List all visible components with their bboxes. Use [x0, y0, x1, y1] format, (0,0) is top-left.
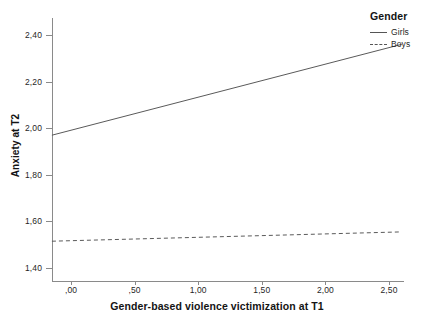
series-line-girls	[52, 44, 402, 135]
legend-title: Gender	[370, 10, 432, 22]
legend-label-girls: Girls	[391, 27, 409, 37]
chart-figure: 2,40 2,20 2,00 1,80 1,60 1,40 ,00 ,50 1,…	[0, 0, 434, 324]
y-axis-title: Anxiety at T2	[10, 86, 21, 206]
legend-line-dashed-icon	[370, 40, 387, 48]
legend: Gender Girls Boys	[368, 10, 432, 50]
legend-label-boys: Boys	[391, 39, 410, 49]
legend-line-solid-icon	[370, 28, 387, 36]
x-axis-title: Gender-based violence victimization at T…	[0, 300, 434, 312]
series-line-boys	[52, 232, 402, 241]
legend-item-girls[interactable]: Girls	[370, 26, 432, 38]
legend-item-boys[interactable]: Boys	[370, 38, 432, 50]
